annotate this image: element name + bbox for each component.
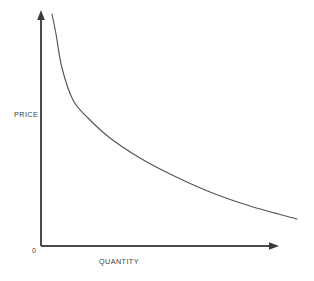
price-axis-arrow-up-icon	[37, 10, 45, 20]
quantity-axis-arrow-right-icon	[269, 242, 279, 250]
demand-curve-chart: PRICE QUANTITY 0	[0, 0, 314, 281]
origin-label: 0	[32, 247, 36, 254]
chart-canvas	[0, 0, 314, 281]
price-axis-label: PRICE	[14, 111, 38, 118]
demand-curve-line	[52, 14, 297, 219]
quantity-axis-label: QUANTITY	[99, 258, 139, 265]
